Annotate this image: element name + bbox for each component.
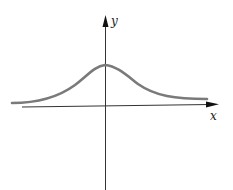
graph: y x — [0, 0, 233, 190]
x-axis-label: x — [210, 109, 217, 123]
bell-curve — [12, 65, 207, 103]
x-axis — [22, 105, 210, 108]
y-axis-arrow-icon — [103, 15, 109, 27]
x-axis-arrow-icon — [206, 102, 219, 108]
y-axis-label: y — [110, 14, 118, 28]
